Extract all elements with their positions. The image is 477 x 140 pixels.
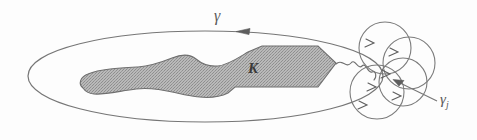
label-gamma: γ xyxy=(214,8,220,24)
gamma-j-leader-line xyxy=(393,80,437,102)
label-compact-set-K: K xyxy=(248,61,258,76)
label-gamma-j: γj xyxy=(440,92,449,110)
circle-family-gamma-j xyxy=(350,22,435,119)
figure-container: γ K γj xyxy=(0,0,477,140)
label-gamma-j-subscript: j xyxy=(446,99,449,110)
compact-set-K-shape xyxy=(80,46,336,97)
figure-svg xyxy=(0,0,477,140)
gamma-orientation-arrow-icon xyxy=(236,28,250,34)
circle-orientation-tick-icons xyxy=(358,39,401,109)
squiggle-tail xyxy=(336,62,376,80)
